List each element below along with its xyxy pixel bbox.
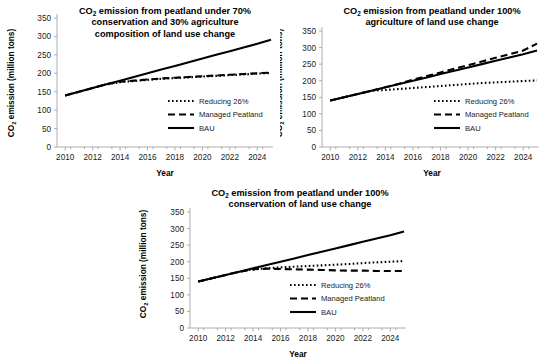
x-tick-label: 2014 (244, 334, 263, 343)
legend-label-managed: Managed Peatland (465, 110, 529, 119)
x-tick-label: 2022 (221, 153, 240, 162)
x-tick-label: 2022 (487, 153, 506, 162)
x-tick-label: 2018 (431, 153, 450, 162)
x-tick-label: 2016 (138, 153, 157, 162)
x-tick-label: 2020 (326, 334, 345, 343)
chart-title-line-2: conservation of land use change (229, 199, 372, 209)
x-tick-label: 2022 (354, 334, 373, 343)
y-tick-label: 100 (302, 110, 316, 119)
series-line-managed-peatland (330, 44, 537, 101)
legend-label-bau: BAU (321, 308, 337, 317)
legend-label-bau: BAU (465, 124, 481, 133)
series-line-reducing-26 (65, 73, 271, 95)
chart-title-line-3: composition of land use change (95, 29, 235, 39)
chart-svg-3: CO2 emission from peatland under 100%con… (132, 182, 412, 363)
series-line-bau (65, 40, 271, 96)
legend-label-managed: Managed Peatland (321, 294, 385, 303)
y-tick-label: 200 (302, 77, 316, 86)
y-tick-label: 250 (37, 51, 51, 60)
y-tick-label: 300 (302, 44, 316, 53)
y-tick-label: 0 (46, 143, 51, 152)
x-tick-label: 2010 (189, 334, 208, 343)
legend-label-reducing: Reducing 26% (199, 97, 249, 106)
y-tick-label: 0 (311, 143, 316, 152)
x-axis-title: Year (289, 349, 307, 359)
y-tick-label: 150 (37, 88, 51, 97)
legend-label-managed: Managed Peatland (199, 110, 263, 119)
x-tick-label: 2012 (217, 334, 236, 343)
x-tick-label: 2024 (514, 153, 533, 162)
y-tick-label: 350 (302, 27, 316, 36)
chart-title-line-2: conservation and 30% agriculture (91, 17, 238, 27)
x-tick-label: 2010 (56, 153, 75, 162)
chart-panel-100-conservation: CO2 emission from peatland under 100%con… (132, 182, 412, 363)
chart-panel-70-conservation: CO2 emission from peatland under 70%cons… (0, 0, 280, 182)
y-tick-label: 50 (42, 125, 52, 134)
y-axis-title: CO2 emission (million tons) (6, 29, 17, 138)
y-tick-label: 250 (302, 60, 316, 69)
chart-title-line-2: agriculture of land use change (365, 17, 498, 27)
y-tick-label: 150 (302, 93, 316, 102)
x-tick-label: 2020 (459, 153, 478, 162)
chart-svg-2: CO2 emission from peatland under 100%agr… (280, 0, 545, 182)
x-tick-label: 2016 (404, 153, 423, 162)
x-tick-label: 2012 (84, 153, 103, 162)
x-tick-label: 2018 (166, 153, 185, 162)
y-tick-label: 50 (307, 126, 317, 135)
x-tick-label: 2012 (349, 153, 368, 162)
y-tick-label: 200 (37, 69, 51, 78)
legend-label-bau: BAU (199, 124, 215, 133)
y-tick-label: 350 (37, 14, 51, 23)
y-tick-label: 0 (179, 324, 184, 333)
y-axis-title: CO2 emission (million tons) (138, 210, 149, 319)
y-tick-label: 350 (170, 208, 184, 217)
x-tick-label: 2018 (299, 334, 318, 343)
legend-label-reducing: Reducing 26% (321, 281, 371, 290)
x-tick-label: 2016 (271, 334, 290, 343)
series-line-managed-peatland (65, 73, 271, 96)
x-tick-label: 2010 (321, 153, 340, 162)
x-axis-title: Year (423, 168, 441, 178)
chart-title-line-1: CO2 emission from peatland under 70% (79, 6, 251, 17)
x-tick-label: 2024 (248, 153, 267, 162)
series-line-bau (198, 232, 404, 282)
chart-title-line-1: CO2 emission from peatland under 100% (211, 188, 388, 199)
chart-title-line-1: CO2 emission from peatland under 100% (343, 6, 520, 17)
y-tick-label: 200 (170, 258, 184, 267)
y-tick-label: 150 (170, 274, 184, 283)
y-tick-label: 250 (170, 241, 184, 250)
y-tick-label: 100 (37, 106, 51, 115)
x-tick-label: 2014 (111, 153, 130, 162)
y-tick-label: 100 (170, 291, 184, 300)
y-tick-label: 50 (175, 307, 185, 316)
x-tick-label: 2020 (193, 153, 212, 162)
x-tick-label: 2024 (381, 334, 400, 343)
chart-panel-100-agriculture: CO2 emission from peatland under 100%agr… (280, 0, 545, 182)
legend-label-reducing: Reducing 26% (465, 97, 515, 106)
chart-svg-1: CO2 emission from peatland under 70%cons… (0, 0, 280, 182)
x-axis-title: Year (156, 168, 174, 178)
x-tick-label: 2014 (376, 153, 395, 162)
y-tick-label: 300 (170, 225, 184, 234)
y-tick-label: 300 (37, 32, 51, 41)
series-line-bau (330, 51, 537, 101)
y-axis-title: CO2 emission (million tons) (280, 29, 285, 138)
